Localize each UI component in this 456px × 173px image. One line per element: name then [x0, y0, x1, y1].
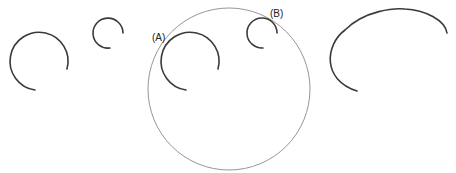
arc-left-small: [93, 18, 123, 48]
arc-b: [247, 18, 277, 48]
arc-left-large: [10, 32, 68, 90]
enclosing-circle: [148, 8, 310, 170]
label-a: (A): [152, 32, 165, 43]
arc-a: [161, 32, 219, 90]
label-b: (B): [270, 8, 283, 19]
arc-right-large: [330, 9, 447, 91]
diagram-canvas: (A) (B): [0, 0, 456, 173]
